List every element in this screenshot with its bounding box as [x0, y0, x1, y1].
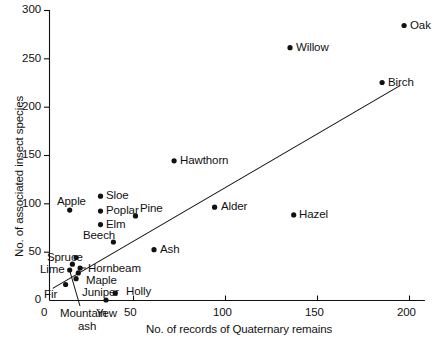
point-label-oak: Oak [410, 19, 431, 31]
data-point-poplar[interactable] [98, 209, 103, 214]
point-label-hawthorn: Hawthorn [180, 154, 228, 166]
point-label-fir: Fir [44, 288, 57, 300]
y-tick-label-300: 300 [8, 3, 41, 15]
data-point-ash[interactable] [151, 247, 156, 252]
data-point-yew[interactable] [103, 297, 108, 302]
data-point-birch[interactable] [380, 80, 385, 85]
data-point-alder[interactable] [212, 205, 217, 210]
data-point-oak[interactable] [402, 23, 407, 28]
scatter-plot-figure: 300 250 200 150 100 50 0 0 50 100 150 20… [0, 0, 438, 343]
data-point-hawthorn[interactable] [172, 158, 177, 163]
y-axis-title: No. of associated insect species [13, 96, 25, 257]
point-label-birch: Birch [388, 76, 414, 88]
point-label-lime: Lime [40, 263, 65, 275]
point-label-apple: Apple [57, 195, 86, 207]
data-point-juniper[interactable] [74, 276, 79, 281]
point-label-sloe: Sloe [106, 189, 129, 201]
y-tick-label-0: 0 [8, 293, 41, 305]
point-label-willow: Willow [296, 41, 329, 53]
data-point-hazel[interactable] [291, 212, 296, 217]
data-point-maple[interactable] [76, 270, 81, 275]
point-label-maple: Maple [86, 274, 117, 286]
point-label-hornbeam: Hornbeam [88, 262, 141, 274]
y-tick-label-250: 250 [8, 52, 41, 64]
plot-canvas [0, 0, 438, 343]
point-label-juniper: Juniper [82, 286, 119, 298]
point-label-yew: Yew [96, 307, 117, 319]
x-tick-label-50: 50 [124, 306, 144, 318]
x-tick-label-100: 100 [213, 306, 239, 318]
point-label-beech: Beech [83, 229, 115, 241]
data-point-apple[interactable] [67, 208, 72, 213]
data-point-mountain-ash[interactable] [67, 267, 72, 272]
x-tick-label-200: 200 [397, 306, 423, 318]
point-label-pine: Pine [140, 202, 163, 214]
trend-line [53, 85, 401, 288]
data-point-sloe[interactable] [98, 194, 103, 199]
data-point-willow[interactable] [287, 45, 292, 50]
point-label-spruce: Spruce [47, 251, 83, 263]
x-axis-title: No. of records of Quaternary remains [146, 323, 332, 335]
point-label-holly: Holly [126, 285, 151, 297]
data-point-elm[interactable] [98, 222, 103, 227]
point-label-mountain-ash-line2: ash [78, 320, 96, 332]
data-point-fir[interactable] [63, 282, 68, 287]
x-tick-label-150: 150 [305, 306, 331, 318]
point-label-poplar: Poplar [106, 204, 139, 216]
x-tick-label-0: 0 [41, 306, 59, 318]
data-point-hornbeam[interactable] [78, 266, 83, 271]
point-label-ash: Ash [160, 243, 180, 255]
point-label-alder: Alder [221, 200, 247, 212]
point-label-hazel: Hazel [299, 208, 328, 220]
